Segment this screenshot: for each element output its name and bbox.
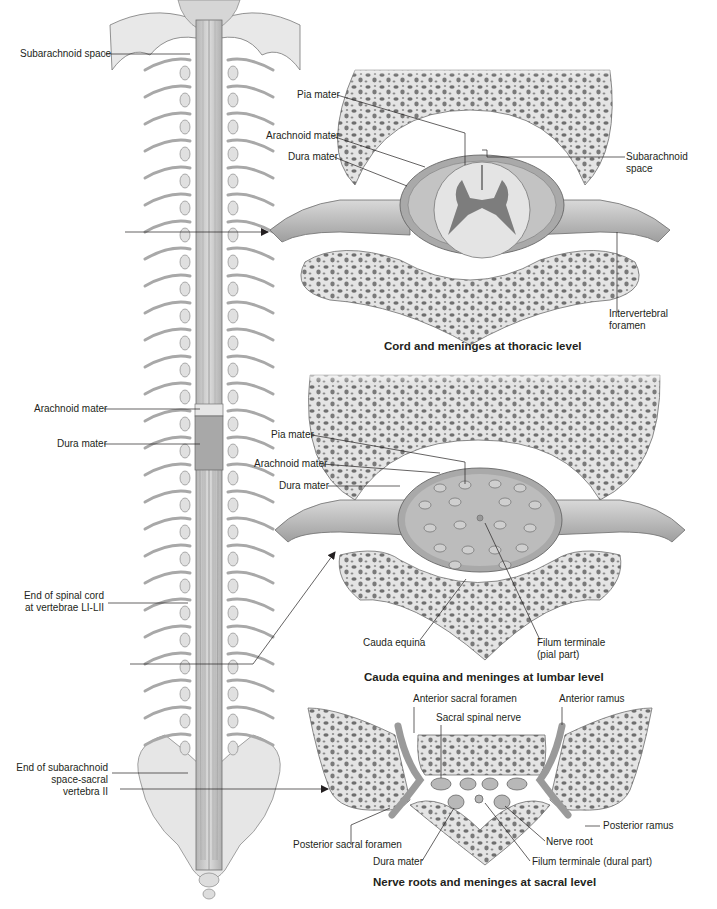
thoracic-cross-section — [270, 62, 670, 345]
lumbar-label-filum-terminale-pial: Filum terminale (pial part) — [537, 637, 605, 661]
label-end-spinal-cord: End of spinal cord at vertebrae LI-LII — [24, 590, 104, 614]
lumbar-label-arachnoid-mater: Arachnoid mater — [254, 458, 327, 470]
sacral-label-anterior-sacral-foramen: Anterior sacral foramen — [413, 693, 517, 705]
sacral-label-posterior-sacral-foramen: Posterior sacral foramen — [293, 839, 402, 851]
label-end-subarachnoid-space: End of subarachnoid space-sacral vertebr… — [16, 762, 108, 798]
lumbar-label-pia-mater: Pia mater — [271, 429, 314, 441]
sacral-caption: Nerve roots and meninges at sacral level — [373, 876, 596, 888]
lumbar-cross-section — [275, 368, 685, 660]
thoracic-label-pia-mater: Pia mater — [297, 89, 340, 101]
label-subarachnoid-space: Subarachnoid space — [20, 48, 111, 60]
sacral-label-anterior-ramus: Anterior ramus — [559, 693, 625, 705]
label-arachnoid-mater: Arachnoid mater — [34, 403, 107, 415]
thoracic-label-arachnoid-mater: Arachnoid mater — [266, 130, 339, 142]
thoracic-caption: Cord and meninges at thoracic level — [384, 340, 581, 352]
thoracic-label-intervertebral-foramen: Intervertebral foramen — [609, 308, 668, 332]
sacral-label-posterior-ramus: Posterior ramus — [603, 820, 674, 832]
lumbar-label-dura-mater: Dura mater — [279, 480, 329, 492]
thoracic-label-dura-mater: Dura mater — [288, 151, 338, 163]
label-dura-mater: Dura mater — [57, 438, 107, 450]
thoracic-label-subarachnoid-space: Subarachnoid space — [626, 151, 688, 175]
sacral-label-dura-mater: Dura mater — [373, 856, 423, 868]
sacral-label-sacral-spinal-nerve: Sacral spinal nerve — [436, 712, 521, 724]
lumbar-label-cauda-equina: Cauda equina — [363, 637, 425, 649]
sacral-label-nerve-root: Nerve root — [546, 836, 593, 848]
lumbar-caption: Cauda equina and meninges at lumbar leve… — [364, 671, 604, 683]
sacral-label-filum-terminale-dural: Filum terminale (dural part) — [532, 856, 652, 868]
